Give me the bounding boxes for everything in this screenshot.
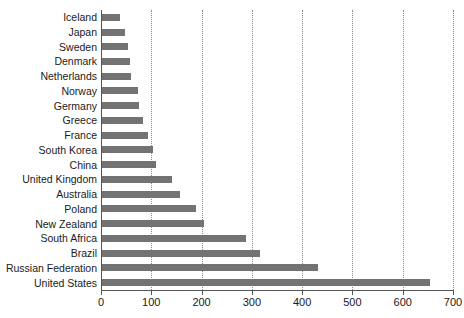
bar-row	[101, 158, 453, 172]
bar-chart: IcelandJapanSwedenDenmarkNetherlandsNorw…	[0, 0, 464, 318]
y-tick-label: New Zealand	[35, 217, 97, 231]
bar	[101, 117, 143, 124]
bar	[101, 87, 138, 94]
bar-row	[101, 84, 453, 98]
bar-row	[101, 113, 453, 127]
x-tick-700	[453, 290, 454, 295]
y-tick-label: United Kingdom	[22, 172, 97, 186]
x-tick-label: 500	[343, 296, 361, 308]
bar	[101, 14, 120, 21]
y-tick-label: Netherlands	[40, 69, 97, 83]
bar-row	[101, 276, 453, 290]
bar-row	[101, 25, 453, 39]
y-tick-label: Poland	[64, 202, 97, 216]
x-tick-100	[151, 290, 152, 295]
x-tick-label: 700	[444, 296, 462, 308]
bar	[101, 235, 246, 242]
y-tick-label: Sweden	[59, 40, 97, 54]
y-tick-label: Brazil	[71, 246, 97, 260]
bar	[101, 220, 204, 227]
bar	[101, 132, 148, 139]
bar-row	[101, 202, 453, 216]
bar	[101, 264, 318, 271]
y-tick-label: United States	[34, 276, 97, 290]
gridline-700	[453, 10, 454, 290]
x-tick-300	[252, 290, 253, 295]
bar	[101, 250, 260, 257]
bar	[101, 43, 128, 50]
bar-row	[101, 246, 453, 260]
y-tick-label: Iceland	[63, 10, 97, 24]
x-tick-400	[302, 290, 303, 295]
x-tick-label: 300	[243, 296, 261, 308]
y-tick-label: Greece	[63, 113, 97, 127]
y-axis-line	[101, 10, 102, 291]
y-tick-label: Germany	[54, 99, 97, 113]
x-axis-line	[101, 290, 453, 291]
bar	[101, 176, 172, 183]
y-tick-label: China	[70, 158, 97, 172]
bar	[101, 191, 180, 198]
bar	[101, 29, 125, 36]
bar	[101, 58, 130, 65]
bar-row	[101, 99, 453, 113]
bar-row	[101, 10, 453, 24]
bar-row	[101, 69, 453, 83]
bar-row	[101, 187, 453, 201]
x-tick-0	[101, 290, 102, 295]
bar	[101, 146, 153, 153]
y-tick-label: France	[64, 128, 97, 142]
x-tick-600	[403, 290, 404, 295]
bar-row	[101, 54, 453, 68]
y-tick-label: South Africa	[40, 231, 97, 245]
y-axis-labels: IcelandJapanSwedenDenmarkNetherlandsNorw…	[0, 10, 97, 290]
x-tick-500	[352, 290, 353, 295]
x-tick-200	[202, 290, 203, 295]
bar-row	[101, 172, 453, 186]
x-tick-label: 200	[192, 296, 210, 308]
bar-row	[101, 217, 453, 231]
bar	[101, 161, 156, 168]
y-tick-label: Japan	[68, 25, 97, 39]
bar	[101, 279, 430, 286]
y-tick-label: Denmark	[54, 54, 97, 68]
plot-area	[101, 10, 453, 290]
y-tick-label: Norway	[61, 84, 97, 98]
y-tick-label: Russian Federation	[6, 261, 97, 275]
x-tick-label: 100	[142, 296, 160, 308]
x-tick-label: 600	[394, 296, 412, 308]
bar-row	[101, 128, 453, 142]
y-tick-label: Australia	[56, 187, 97, 201]
bar-row	[101, 231, 453, 245]
bar-row	[101, 143, 453, 157]
bar	[101, 205, 196, 212]
bar-row	[101, 40, 453, 54]
bar	[101, 102, 139, 109]
x-tick-label: 0	[98, 296, 104, 308]
y-tick-label: South Korea	[39, 143, 97, 157]
bar-row	[101, 261, 453, 275]
x-tick-label: 400	[293, 296, 311, 308]
bar	[101, 73, 131, 80]
